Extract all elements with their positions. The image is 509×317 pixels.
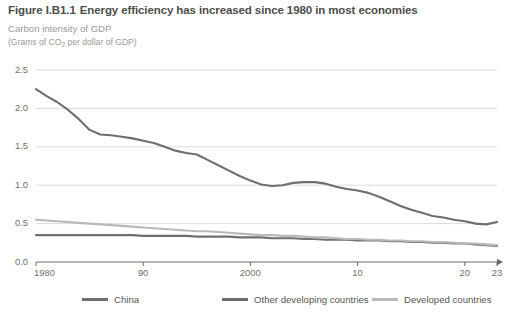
y-axis-tick-label: 0.5	[6, 218, 28, 228]
figure-container: Figure I.B1.1Energy efficiency has incre…	[0, 0, 509, 317]
series-line	[36, 89, 497, 224]
x-axis-tick-label: 1980	[34, 268, 55, 278]
x-axis-tick-label: 2000	[240, 268, 261, 278]
x-axis-tick-label: 10	[352, 268, 362, 278]
legend-label: China	[114, 294, 139, 305]
y-axis-tick-label: 1.5	[6, 141, 28, 151]
y-axis-tick-label: 2.0	[6, 103, 28, 113]
series-lines-group	[36, 89, 497, 246]
legend-label: Developed countries	[404, 294, 491, 305]
legend-label: Other developing countries	[254, 294, 369, 305]
y-axis-tick-label: 0.0	[6, 257, 28, 267]
x-axis-arrowhead	[497, 259, 503, 266]
x-axis-tick-label: 23	[492, 268, 502, 278]
series-line	[36, 235, 497, 246]
legend-item[interactable]: Developed countries	[372, 294, 491, 305]
y-axis-tick-label: 2.5	[6, 65, 28, 75]
legend-swatch-icon	[82, 298, 108, 301]
y-axis-tick-label: 1.0	[6, 180, 28, 190]
chart-legend: ChinaOther developing countriesDeveloped…	[0, 290, 509, 310]
legend-swatch-icon	[372, 298, 398, 301]
x-tick-marks-group	[36, 262, 497, 266]
x-axis-tick-label: 90	[138, 268, 148, 278]
legend-swatch-icon	[222, 298, 248, 301]
gridlines-group	[36, 70, 497, 224]
legend-item[interactable]: China	[82, 294, 139, 305]
x-axis-tick-label: 20	[460, 268, 470, 278]
legend-item[interactable]: Other developing countries	[222, 294, 369, 305]
